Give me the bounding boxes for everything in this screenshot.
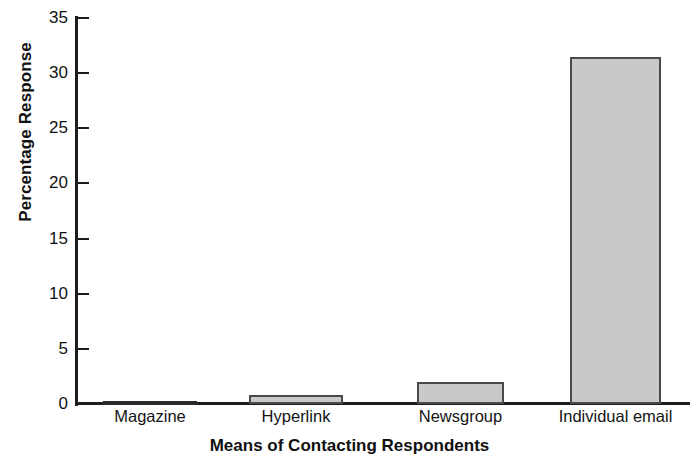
y-axis-tick-label: 5 bbox=[28, 340, 68, 357]
x-axis-title: Means of Contacting Respondents bbox=[0, 436, 699, 456]
y-axis-tick-label: 25 bbox=[28, 119, 68, 136]
x-axis-category-label: Hyperlink bbox=[206, 407, 386, 425]
y-axis-tick-label: 35 bbox=[28, 9, 68, 26]
y-axis-tick bbox=[78, 182, 89, 184]
x-axis-category-label: Newsgroup bbox=[371, 407, 551, 425]
y-axis-tick bbox=[78, 127, 89, 129]
x-axis-category-label: Individual email bbox=[526, 407, 699, 425]
y-axis-tick-label: 15 bbox=[28, 230, 68, 247]
y-axis-tick bbox=[78, 348, 89, 350]
bar bbox=[249, 395, 343, 404]
y-axis-tick bbox=[78, 17, 89, 19]
y-axis-tick bbox=[78, 403, 89, 405]
y-axis-tick-label: 20 bbox=[28, 174, 68, 191]
y-axis-tick bbox=[78, 238, 89, 240]
y-axis-tick-label: 30 bbox=[28, 64, 68, 81]
bar bbox=[570, 57, 661, 404]
y-axis-tick bbox=[78, 293, 89, 295]
y-axis-tick-label: 10 bbox=[28, 285, 68, 302]
bar bbox=[417, 382, 504, 404]
y-axis-tick bbox=[78, 72, 89, 74]
bar bbox=[103, 401, 197, 405]
